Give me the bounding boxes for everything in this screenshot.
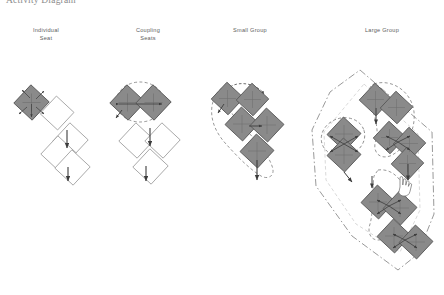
cluster-large-group (312, 70, 434, 270)
diagram-canvas (0, 0, 444, 295)
activity-diagram-figure: Activity Diagram Individual Seat Couplin… (0, 0, 444, 295)
cluster-individual-seat (14, 85, 90, 185)
hand-cursor-icon (399, 177, 412, 197)
diagram-svg (0, 0, 444, 295)
empty-unit-group (40, 96, 90, 185)
cluster-coupling-seats (110, 82, 180, 184)
cluster-small-group (211, 82, 284, 180)
